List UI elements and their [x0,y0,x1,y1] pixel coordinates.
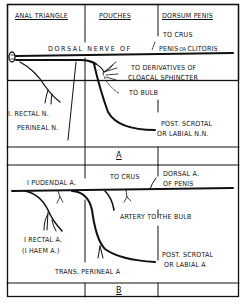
dorsal-nerve-line [16,53,233,56]
label-perineal-nerve: PERINEAL N. [17,124,58,132]
caption-a: A [116,151,122,159]
label-dorsal-nerve: DORSAL NERVE OF [48,45,132,53]
header-dorsum-penis: DORSUM PENIS [162,12,213,20]
label-to-crus: TO CRUS [163,31,193,39]
label-pudendal: I PUDENDAL A. [27,179,76,187]
header-anal-triangle: ANAL TRIANGLE [15,12,68,20]
canal-icon [9,52,15,62]
label-post-scrotal-b-1: POST. SCROTAL [162,251,213,259]
label-post-scrotal-1: POST. SCROTAL [161,120,212,128]
label-cloacal-sphincter: CLOACAL SPHINCTER [128,74,198,82]
label-artery-to-bulb: ARTERY TO THE BULB [120,213,192,221]
label-post-scrotal-2: OR LABIAL N.N. [157,130,209,138]
label-derivatives: TO DERIVATIVES OF [131,64,196,72]
label-penis-clitoris: PENISORCLITORIS [159,45,218,53]
label-to-bulb: TO BULB [129,89,158,97]
label-rectal-a: I RECTAL A. [24,236,62,244]
label-post-scrotal-b-2: OR LABIAL A [164,261,206,269]
label-dorsal-a-1: DORSAL A. [163,170,199,178]
label-to-crus-b: TO CRUS [110,173,140,181]
label-or: OR [179,46,186,52]
pudendal-artery-line [12,188,233,191]
label-trans-perineal: TRANS. PERINEAL A [55,268,120,276]
label-rectal-nerve: I. RECTAL N. [8,110,49,118]
label-clitoris: CLITORIS [187,45,217,53]
label-penis: PENIS [159,45,178,53]
label-haem-a: (I HAEM A.) [22,247,60,255]
label-dorsal-a-2: OF PENIS [163,180,194,188]
caption-b: B [116,286,122,294]
header-pouches: POUCHES [99,12,131,20]
